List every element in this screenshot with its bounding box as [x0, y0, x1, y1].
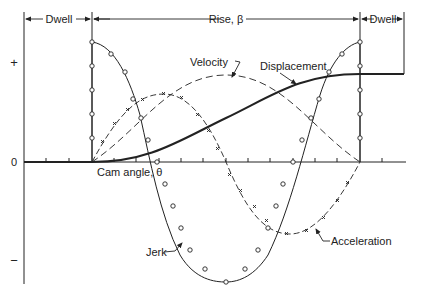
acceleration-label: Acceleration — [331, 235, 392, 247]
rise-label: Rise, β — [209, 13, 243, 25]
displacement-curve — [24, 74, 404, 162]
displacement-label: Displacement — [260, 60, 327, 72]
velocity-leader — [232, 61, 240, 77]
y-plus-label: + — [10, 55, 18, 70]
cam-motion-diagram: Dwell Rise, β Dwell + 0 − Cam angle, θ — [0, 0, 428, 298]
acceleration-curve — [92, 94, 360, 234]
dwell-right-label: Dwell — [370, 13, 397, 25]
acceleration-leader — [316, 229, 330, 241]
dwell-left-label: Dwell — [46, 13, 73, 25]
displacement-leader — [280, 73, 296, 84]
y-minus-label: − — [10, 253, 18, 268]
acceleration-markers — [101, 92, 349, 235]
velocity-label: Velocity — [190, 56, 228, 68]
y-zero-label: 0 — [11, 156, 17, 168]
